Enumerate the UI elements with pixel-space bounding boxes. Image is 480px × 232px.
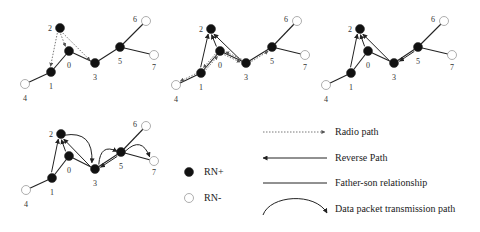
node-label-4: 4	[23, 95, 27, 103]
rn-plus-node-0	[364, 47, 373, 56]
node-label-6: 6	[133, 121, 137, 129]
rn-minus-node-4	[322, 81, 331, 90]
rn-plus-node-2	[57, 130, 66, 139]
reverse-path-arrow	[201, 34, 209, 67]
node-label-4: 4	[174, 96, 178, 104]
node-label-0: 0	[67, 62, 71, 70]
node-label-6: 6	[133, 16, 137, 24]
legend-data-packet-label: Data packet transmission path	[335, 204, 455, 214]
rn-plus-node-0	[65, 152, 74, 161]
legend-rn-minus-icon	[185, 194, 194, 203]
father-son-edge	[418, 21, 444, 47]
diagram-panel-1	[21, 17, 159, 89]
reverse-path-arrow	[52, 139, 59, 172]
rn-plus-node-5	[116, 43, 125, 52]
rn-minus-node-6	[293, 17, 302, 26]
node-label-6: 6	[284, 16, 288, 24]
legend-radio-path-label: Radio path	[335, 127, 379, 137]
radio-path-arrow	[203, 54, 215, 68]
rn-minus-node-4	[22, 186, 31, 195]
node-label-4: 4	[324, 96, 328, 104]
radio-path-arrow	[252, 51, 269, 61]
node-label-3: 3	[93, 180, 97, 188]
node-label-7: 7	[303, 64, 307, 72]
rn-minus-node-7	[301, 51, 310, 60]
rn-plus-node-3	[390, 59, 399, 68]
node-label-6: 6	[431, 16, 435, 24]
node-label-7: 7	[152, 64, 156, 72]
node-label-7: 7	[450, 64, 454, 72]
node-label-0: 0	[67, 167, 71, 175]
node-label-5: 5	[416, 58, 420, 66]
diagram-panel-2	[172, 17, 310, 90]
panels-layer	[21, 17, 457, 195]
rn-plus-node-3	[91, 165, 100, 174]
reverse-path-arrow	[61, 140, 65, 152]
node-label-0: 0	[366, 62, 370, 70]
legend-father-son-label: Father-son relationship	[335, 178, 427, 188]
node-label-5: 5	[270, 58, 274, 66]
network-diagram	[0, 0, 480, 232]
father-son-edge	[418, 47, 452, 55]
radio-path-arrow	[224, 55, 240, 62]
node-label-0: 0	[218, 62, 222, 70]
rn-plus-node-1	[347, 69, 356, 78]
radio-path-arrow	[61, 34, 66, 47]
radio-path-arrow	[206, 56, 218, 70]
rn-minus-node-6	[440, 17, 449, 26]
rn-plus-node-2	[207, 25, 216, 34]
rn-minus-node-6	[142, 122, 151, 131]
rn-minus-node-4	[172, 81, 181, 90]
node-label-5: 5	[118, 58, 122, 66]
rn-plus-node-1	[47, 68, 56, 77]
father-son-edge	[121, 126, 146, 152]
node-label-5: 5	[119, 163, 123, 171]
node-label-1: 1	[199, 84, 203, 92]
legend-rn-plus-icon	[185, 168, 194, 177]
rn-minus-node-4	[21, 80, 30, 89]
legend-data-packet-path-icon	[263, 199, 327, 215]
rn-plus-node-3	[242, 59, 251, 68]
rn-plus-node-5	[414, 43, 423, 52]
node-label-1: 1	[49, 83, 53, 91]
rn-plus-node-5	[117, 148, 126, 157]
rn-plus-node-5	[268, 43, 277, 52]
legend-reverse-path-label: Reverse Path	[335, 153, 388, 163]
reverse-path-arrow	[360, 35, 364, 47]
rn-minus-node-7	[150, 51, 159, 60]
father-son-edge	[120, 21, 146, 47]
rn-plus-node-1	[48, 174, 57, 183]
radio-path-arrow	[63, 33, 90, 60]
rn-plus-node-3	[91, 59, 100, 68]
reverse-path-arrow	[351, 34, 358, 67]
node-label-4: 4	[24, 201, 28, 209]
node-label-1: 1	[349, 84, 353, 92]
father-son-edge	[272, 47, 305, 55]
father-son-edge	[120, 47, 154, 55]
rn-minus-node-7	[448, 51, 457, 60]
reverse-path-arrow	[399, 51, 414, 61]
data-packet-path-arrow	[125, 145, 149, 157]
rn-plus-node-0	[65, 47, 74, 56]
radio-path-arrow	[51, 33, 58, 66]
node-label-2: 2	[48, 25, 52, 33]
node-label-3: 3	[93, 74, 97, 82]
rn-plus-node-1	[197, 69, 206, 78]
rn-minus-node-6	[142, 17, 151, 26]
node-label-3: 3	[244, 74, 248, 82]
radio-path-arrow	[180, 74, 195, 81]
rn-plus-node-0	[216, 47, 225, 56]
rn-minus-node-7	[150, 157, 159, 166]
father-son-edge	[272, 21, 297, 47]
node-label-2: 2	[348, 26, 352, 34]
node-label-1: 1	[50, 189, 54, 197]
diagram-panel-4	[22, 122, 159, 195]
node-label-3: 3	[392, 74, 396, 82]
diagram-panel-3	[322, 17, 457, 90]
node-label-2: 2	[199, 26, 203, 34]
node-label-7: 7	[152, 169, 156, 177]
legend-rn-minus-label: RN-	[204, 193, 221, 203]
node-label-2: 2	[49, 131, 53, 139]
legend-rn-plus-label: RN+	[204, 167, 224, 177]
rn-plus-node-2	[356, 25, 365, 34]
